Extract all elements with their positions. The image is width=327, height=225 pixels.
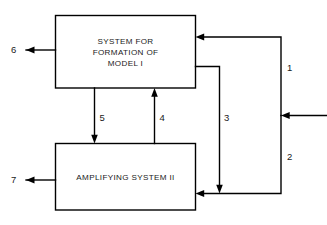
- block-i-label-line-1: SYSTEM FOR: [97, 37, 153, 46]
- signal-1-label: 1: [287, 62, 292, 73]
- signal-5-arrowhead: [91, 135, 98, 144]
- signal-4-arrowhead: [151, 88, 158, 97]
- signal-4-label: 4: [160, 112, 165, 123]
- signal-6-arrowhead: [26, 47, 35, 54]
- signal-2-label: 2: [287, 151, 292, 162]
- block-i-label-line-2: FORMATION OF: [93, 48, 159, 57]
- block-ii-label-line-1: AMPLIFYING SYSTEM II: [76, 173, 174, 182]
- block-diagram: SYSTEM FOR FORMATION OF MODEL I AMPLIFYI…: [0, 0, 327, 225]
- external-input-arrowhead: [281, 112, 290, 119]
- signal-1-arrowhead: [196, 34, 205, 41]
- signal-7-arrowhead: [26, 177, 35, 184]
- signal-3-line: [196, 67, 220, 187]
- signal-3-label: 3: [224, 112, 229, 123]
- signal-2-line: [203, 116, 281, 194]
- signal-1-line: [203, 37, 281, 116]
- diagram-canvas: SYSTEM FOR FORMATION OF MODEL I AMPLIFYI…: [0, 0, 327, 225]
- signal-7-label: 7: [11, 174, 16, 185]
- signal-5-label: 5: [100, 112, 105, 123]
- signal-3-arrowhead: [216, 185, 223, 194]
- block-i-label-line-3: MODEL I: [108, 59, 143, 68]
- signal-2-arrowhead: [196, 190, 205, 197]
- signal-6-label: 6: [11, 44, 16, 55]
